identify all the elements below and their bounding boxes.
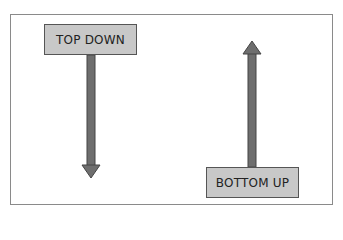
bottom-up-box: BOTTOM UP: [206, 167, 299, 198]
bottom-up-label: BOTTOM UP: [216, 176, 289, 190]
down-arrow-icon: [82, 55, 100, 178]
up-arrow-icon: [243, 41, 261, 167]
top-down-box: TOP DOWN: [44, 24, 137, 55]
top-down-label: TOP DOWN: [56, 33, 125, 47]
